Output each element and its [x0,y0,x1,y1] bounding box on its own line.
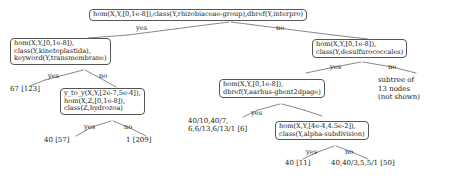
edge-label-kineto-yes: yes [48,73,59,80]
leaf-alpha-yes-value: 40 [11] [285,159,311,167]
leaf-alpha-yes: 40 [11] [285,159,311,167]
node-root-label: hom(X,Y,[0,1e-8]),class(Y,rhizobiaceae-g… [93,11,303,19]
edge-alpha-yes [318,146,334,152]
note-subtree-line1: subtree of [378,76,420,85]
edge-label-alpha-yes: yes [306,149,317,156]
leaf-hydrozoa-yes: 40 [57] [44,136,70,144]
node-kinetoplastida-line3: keyword(Y,transmembrane) [14,55,107,63]
leaf-dpage-stats-line2: 6,6/13,6/13/1 [6] [188,125,247,133]
edge-label-root-no: no [276,25,284,32]
note-subtree-not-shown: subtree of 13 nodes (not shown) [378,76,420,102]
leaf-kinetoplastida-yes-value: 67 [123] [10,85,40,93]
edge-hydrozoa-no-tail [130,128,146,136]
node-hydrozoa[interactable]: y_to_y(X,Y,[2e-7,5e-4]), hom(X,Z,[0,1e-8… [60,88,145,115]
edge-label-dpage-yes: yes [251,110,262,117]
edge-alpha-no-tail [352,152,368,159]
edge-label-hydrozoa-yes: yes [84,124,95,131]
node-aarhus-ghent2dpage[interactable]: hom(X,Y,[0,1e-8]), dbref(Y,aarhus-ghent2… [219,79,325,98]
leaf-dpage-stats-line1: 40/10,40/7, [188,117,247,125]
leaf-dpage-stats: 40/10,40/7, 6,6/13,6/13/1 [6] [188,117,247,134]
decision-tree-diagram: hom(X,Y,[0,1e-8]),class(Y,rhizobiaceae-g… [0,0,453,179]
edge-dpage-no [282,104,304,110]
edge-label-desulf-no: no [388,64,396,71]
edge-label-hydrozoa-no: no [124,124,132,131]
leaf-hydrozoa-yes-value: 40 [57] [44,136,70,144]
node-hydrozoa-line3: class(Z,hydrozoa) [64,105,141,113]
edge-label-kineto-no: no [99,73,107,80]
note-subtree-line2: 13 nodes [378,85,420,94]
node-root[interactable]: hom(X,Y,[0,1e-8]),class(Y,rhizobiaceae-g… [89,9,307,21]
edge-kineto-no [85,70,100,78]
node-dpage-line2: dbref(Y,aarhus-ghent2dpage) [223,89,321,97]
edge-label-alpha-no: no [345,149,353,156]
leaf-alpha-no: 40,40/3,5,5/1 [50] [331,159,395,167]
node-alpha-subdivision[interactable]: hom(X,Y,[4e-4,4.5e-2]), class(Y,alpha-su… [275,121,369,140]
node-kinetoplastida[interactable]: hom(X,Y,[0,1e-8]), class(Y,kinetoplastid… [10,38,111,65]
edge-desulf-yes-tail [306,68,330,73]
edge-label-root-yes: yes [136,25,147,32]
leaf-hydrozoa-no: 1 [209] [126,136,152,144]
edge-dpage-no-tail [304,110,322,116]
node-desulfurococcales[interactable]: hom(X,Y,[0,1e-8]), class(Y,desulfurococc… [312,39,407,58]
leaf-kinetoplastida-yes: 67 [123] [10,85,40,93]
node-alpha-line2: class(Y,alpha-subdivision) [279,131,365,139]
note-subtree-line3: (not shown) [378,93,420,102]
node-desulfurococcales-line2: class(Y,desulfurococcales) [316,49,403,57]
edge-label-desulf-yes: yes [330,64,341,71]
leaf-alpha-no-value: 40,40/3,5,5/1 [50] [331,159,395,167]
leaf-hydrozoa-no-value: 1 [209] [126,136,152,144]
